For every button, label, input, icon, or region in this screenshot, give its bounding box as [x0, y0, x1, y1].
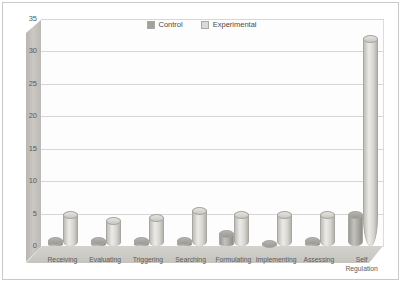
bar-control[interactable]: [91, 240, 104, 246]
bar-cap: [234, 211, 249, 219]
bar-group: [127, 217, 170, 246]
bar-group: [298, 214, 341, 246]
bar-group: [169, 210, 212, 246]
bar-control[interactable]: [48, 240, 61, 246]
bar-control[interactable]: [348, 214, 361, 246]
x-axis-label: Searching: [169, 255, 212, 264]
y-axis-tick-label: 30: [9, 47, 37, 55]
bar-cap: [320, 211, 335, 219]
bar-control[interactable]: [305, 240, 318, 246]
bar-group: [255, 214, 298, 246]
y-axis-tick-label: 25: [9, 80, 37, 88]
plot-area: 05101520253035 ControlExperimental Recei…: [3, 3, 400, 281]
x-axis-labels: ReceivingEvaluatingTriggeringSearchingFo…: [41, 255, 383, 281]
chart-side-wall: [26, 19, 42, 262]
bar-cap: [262, 240, 277, 248]
bar-cap: [348, 211, 363, 219]
bar-experimental[interactable]: [363, 38, 376, 246]
bar-group: [41, 214, 84, 246]
y-axis-tick-label: 10: [9, 177, 37, 185]
bar-cap: [177, 237, 192, 245]
y-axis-tick-label: 15: [9, 145, 37, 153]
bar-cap: [63, 211, 78, 219]
x-axis-label-line1: Triggering: [127, 255, 170, 264]
bar-experimental[interactable]: [234, 214, 247, 246]
bar-group: [84, 220, 127, 246]
x-axis-label: Implementing: [255, 255, 298, 264]
x-axis-label-line1: Receiving: [41, 255, 84, 264]
x-axis-label-line1: Evaluating: [84, 255, 127, 264]
bar-control[interactable]: [219, 233, 232, 246]
x-axis-label: SelfRegulation: [340, 255, 383, 273]
bar-experimental[interactable]: [149, 217, 162, 246]
x-axis-label: Evaluating: [84, 255, 127, 264]
bar-control[interactable]: [262, 243, 275, 246]
bar-group: [212, 214, 255, 246]
x-axis-label: Formulating: [212, 255, 255, 264]
x-axis-label: Assessing: [298, 255, 341, 264]
bar-cap: [277, 211, 292, 219]
bar-body: [192, 210, 207, 246]
bar-cap: [48, 237, 63, 245]
bar-experimental[interactable]: [277, 214, 290, 246]
bar-experimental[interactable]: [106, 220, 119, 246]
x-axis-label-line1: Implementing: [255, 255, 298, 264]
x-axis-label-line1: Assessing: [298, 255, 341, 264]
bar-cap: [134, 237, 149, 245]
y-axis-tick-label: 5: [9, 210, 37, 218]
bar-cap: [149, 214, 164, 222]
bar-group: [340, 38, 383, 246]
y-axis-tick-label: 20: [9, 112, 37, 120]
bar-experimental[interactable]: [192, 210, 205, 246]
bar-control[interactable]: [177, 240, 190, 246]
bar-body: [363, 38, 378, 246]
x-axis-label-line1: Searching: [169, 255, 212, 264]
x-axis-label-line1: Formulating: [212, 255, 255, 264]
x-axis-label: Triggering: [127, 255, 170, 264]
x-axis-label-line1: Self: [340, 255, 383, 264]
bar-control[interactable]: [134, 240, 147, 246]
bar-cap: [91, 237, 106, 245]
y-axis-tick-label: 0: [9, 242, 37, 250]
bar-experimental[interactable]: [63, 214, 76, 246]
chart-container: 05101520253035 ControlExperimental Recei…: [2, 2, 399, 280]
bar-experimental[interactable]: [320, 214, 333, 246]
bar-series-group: [41, 19, 383, 246]
x-axis-label-line2: Regulation: [340, 264, 383, 273]
x-axis-label: Receiving: [41, 255, 84, 264]
bar-cap: [305, 237, 320, 245]
